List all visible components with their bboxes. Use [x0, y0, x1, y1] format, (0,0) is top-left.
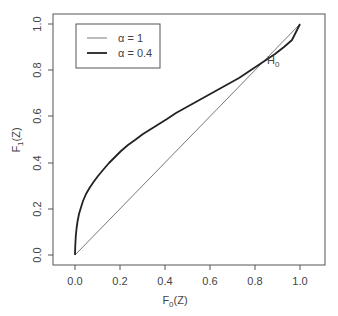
y-tick-label: 0.8 — [31, 62, 43, 77]
y-axis-tick-labels: 0.0 0.2 0.4 0.6 0.8 1.0 — [31, 16, 43, 262]
x-axis-title: F0(Z) — [162, 294, 187, 309]
legend-label-alpha-0.4: α = 0.4 — [118, 47, 152, 59]
x-axis-ticks — [75, 265, 300, 270]
x-tick-label: 0.6 — [202, 275, 217, 287]
y-tick-label: 0.6 — [31, 108, 43, 123]
x-tick-label: 0.4 — [157, 275, 172, 287]
y-tick-label: 0.4 — [31, 155, 43, 170]
y-axis-title: F1(Z) — [10, 127, 25, 152]
legend-label-alpha-1: α = 1 — [118, 32, 143, 44]
x-axis-tick-labels: 0.0 0.2 0.4 0.6 0.8 1.0 — [67, 275, 307, 287]
legend: α = 1 α = 0.4 — [76, 24, 160, 68]
y-tick-label: 1.0 — [31, 16, 43, 31]
x-tick-label: 0.2 — [112, 275, 127, 287]
x-tick-label: 0.0 — [67, 275, 82, 287]
chart: 0.0 0.2 0.4 0.6 0.8 1.0 0.0 0.2 0.4 0.6 … — [0, 0, 338, 316]
x-tick-label: 0.8 — [247, 275, 262, 287]
y-axis-ticks — [48, 24, 53, 255]
legend-box — [76, 24, 160, 68]
y-tick-label: 0.2 — [31, 201, 43, 216]
x-tick-label: 1.0 — [292, 275, 307, 287]
h0-annotation: H0 — [267, 54, 280, 69]
y-tick-label: 0.0 — [31, 247, 43, 262]
